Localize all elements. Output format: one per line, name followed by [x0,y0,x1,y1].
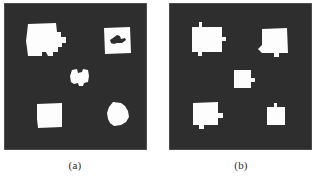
panel-b-canvas [169,3,312,150]
figure-root: (a) (b) [0,0,316,184]
panel-a [4,3,147,150]
panel-a-canvas [4,3,147,150]
caption-panel-b: (b) [211,158,271,172]
panel-b-top-left-region [192,22,226,56]
panel-b [169,3,312,150]
panel-a-bottom-left-region [37,103,62,128]
panel-b-top-right-region [258,28,288,57]
caption-panel-a: (a) [45,158,105,172]
